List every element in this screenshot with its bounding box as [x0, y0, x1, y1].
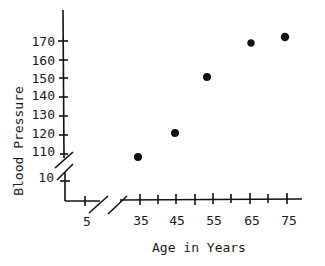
y-tick-label: 10	[38, 170, 54, 185]
data-point-age-75	[281, 33, 289, 41]
x-axis-break-mark	[89, 196, 108, 213]
y-tick-label: 110	[32, 144, 55, 159]
x-tick-label: 75	[281, 213, 297, 228]
x-axis-title: Age in Years	[152, 240, 246, 255]
y-tick-label: 120	[32, 126, 55, 141]
data-point-age-35	[134, 153, 142, 161]
y-tick-labels: 170 160 150 140 130 120 110 10	[32, 34, 55, 185]
x-tick-label: 45	[169, 213, 185, 228]
x-axis-break-mark	[108, 196, 127, 214]
data-point-age-55	[203, 73, 211, 81]
y-tick-label: 130	[32, 107, 55, 122]
blood-pressure-scatter-chart: 170 160 150 140 130 120 110 10 5 35 45 5…	[0, 0, 325, 266]
x-axis-right	[120, 199, 302, 200]
y-tick-label: 160	[32, 53, 55, 68]
x-tick-labels: 5 35 45 55 65 75	[83, 213, 297, 229]
x-tick-label: 5	[83, 214, 91, 229]
x-tick-label: 55	[206, 213, 222, 228]
y-tick-label: 170	[32, 34, 55, 49]
x-tick-label: 35	[133, 213, 149, 228]
data-point-age-45	[171, 129, 179, 137]
y-tick-label: 140	[32, 88, 55, 103]
axes	[55, 10, 302, 214]
x-tick-label: 65	[244, 213, 260, 228]
y-axis-title: Blood Pressure	[11, 86, 26, 196]
data-point-age-65	[247, 39, 254, 46]
y-tick-label: 150	[32, 71, 55, 86]
data-points	[134, 33, 289, 161]
